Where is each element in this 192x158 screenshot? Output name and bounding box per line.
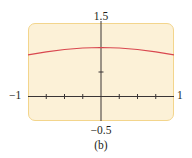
y-max-label: 1.5: [94, 11, 108, 23]
figure-caption: (b): [94, 140, 107, 152]
x-max-label: 1: [177, 90, 183, 102]
y-min-label: −0.5: [91, 125, 112, 137]
x-min-label: −1: [9, 90, 21, 102]
